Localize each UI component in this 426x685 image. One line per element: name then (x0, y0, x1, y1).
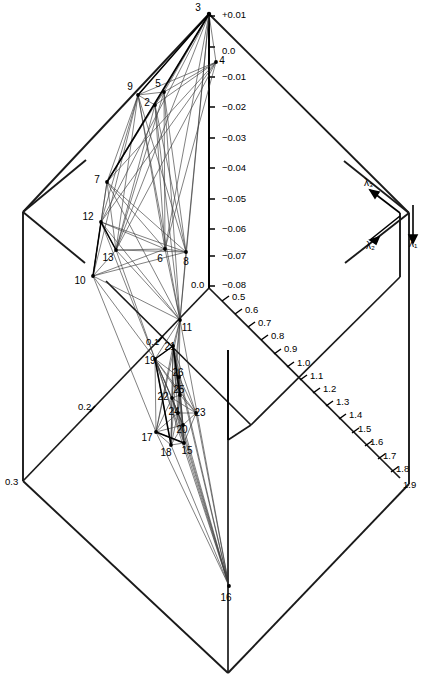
right-tick-label-14: 1.9 (403, 479, 416, 490)
vertical-tick-label-7: −0.06 (222, 223, 246, 234)
vertical-tick-label-4: −0.03 (222, 132, 246, 143)
projection-plot: +0.010.0−0.01−0.02−0.03−0.04−0.05−0.06−0… (0, 0, 426, 685)
right-tick-label-3: 0.8 (271, 330, 284, 341)
point-label-26: 26 (172, 367, 184, 378)
point-marker-17 (154, 430, 158, 434)
lambda-2-arrow-label: λ₂ (366, 240, 375, 251)
point-label-5: 5 (155, 78, 161, 89)
point-label-11: 11 (182, 322, 193, 333)
lambda-2-arrow-line (370, 216, 400, 240)
point-marker-7 (105, 180, 109, 184)
left-tick-label-3: 0.3 (5, 476, 18, 487)
point-label-10: 10 (74, 275, 86, 286)
point-marker-22 (170, 396, 174, 400)
right-tick-label-12: 1.7 (383, 450, 396, 461)
point-label-17: 17 (141, 432, 153, 443)
outer-frame (23, 14, 409, 673)
vertical-tick-label-0: +0.01 (222, 9, 246, 20)
left-tick-label-2: 0.2 (78, 401, 91, 412)
right-wedge (344, 161, 409, 277)
vertical-tick-label-2: −0.01 (222, 71, 246, 82)
point-label-24: 24 (168, 406, 180, 417)
left-tick-label-1: 0.1 (146, 336, 159, 347)
point-marker-6 (163, 247, 167, 251)
vertical-tick-label-9: −0.08 (222, 279, 246, 290)
point-marker-13 (114, 248, 118, 252)
point-label-23: 23 (194, 407, 206, 418)
point-label-19: 19 (144, 355, 156, 366)
right-tick-label-7: 1.2 (323, 383, 336, 394)
right-tick-label-9: 1.4 (349, 409, 362, 420)
point-label-6: 6 (157, 253, 163, 264)
left-wedge (23, 160, 86, 263)
right-diagonal-tick-labels: 0.50.60.70.80.91.01.11.21.31.41.51.61.71… (232, 291, 416, 490)
point-label-15: 15 (181, 445, 193, 456)
left-diagonal-tick-labels: 0.00.10.20.3 (5, 279, 204, 487)
point-marker-10 (91, 274, 95, 278)
inner-axis-diamond (23, 14, 400, 673)
point-label-3: 3 (195, 2, 201, 13)
point-label-16: 16 (220, 592, 232, 603)
point-label-22: 22 (157, 391, 169, 402)
point-label-13: 13 (102, 252, 114, 263)
right-tick-label-6: 1.1 (310, 370, 323, 381)
right-tick-label-1: 0.6 (245, 304, 258, 315)
right-tick-label-4: 0.9 (284, 343, 297, 354)
point-label-8: 8 (183, 256, 189, 267)
right-tick-label-8: 1.3 (336, 396, 349, 407)
point-label-21: 21 (164, 341, 176, 352)
vertical-tick-label-8: −0.07 (222, 250, 246, 261)
point-marker-8 (184, 250, 188, 254)
point-marker-5 (162, 90, 166, 94)
point-label-20: 20 (176, 424, 188, 435)
right-tick-label-2: 0.7 (258, 317, 271, 328)
vertical-tick-label-6: −0.05 (222, 193, 246, 204)
wireframe-emphasis-edges (93, 14, 209, 445)
point-marker-3 (207, 12, 211, 16)
vertical-axis-tick-labels: +0.010.0−0.01−0.02−0.03−0.04−0.05−0.06−0… (222, 9, 246, 290)
left-tick-label-0: 0.0 (191, 279, 204, 290)
right-tick-label-0: 0.5 (232, 291, 245, 302)
lambda-1-arrow-label: λ₁ (409, 238, 418, 249)
vertical-tick-label-3: −0.02 (222, 101, 246, 112)
point-label-25: 25 (173, 384, 185, 395)
lambda-3-arrow-label: λ₃ (364, 177, 373, 188)
point-label-18: 18 (160, 447, 172, 458)
point-label-4: 4 (219, 55, 225, 66)
point-label-12: 12 (82, 211, 94, 222)
point-label-2: 2 (144, 97, 150, 108)
point-marker-12 (99, 220, 103, 224)
point-marker-4 (214, 60, 218, 64)
right-tick-label-5: 1.0 (297, 357, 310, 368)
figure-container: +0.010.0−0.01−0.02−0.03−0.04−0.05−0.06−0… (0, 0, 426, 685)
point-label-7: 7 (94, 174, 100, 185)
right-tick-label-13: 1.8 (396, 463, 409, 474)
vertical-tick-label-5: −0.04 (222, 162, 246, 173)
point-marker-2 (153, 103, 157, 107)
right-tick-label-11: 1.6 (370, 436, 383, 447)
right-tick-label-10: 1.5 (358, 423, 371, 434)
point-marker-9 (136, 93, 140, 97)
point-label-9: 9 (127, 81, 133, 92)
point-marker-16 (227, 584, 231, 588)
